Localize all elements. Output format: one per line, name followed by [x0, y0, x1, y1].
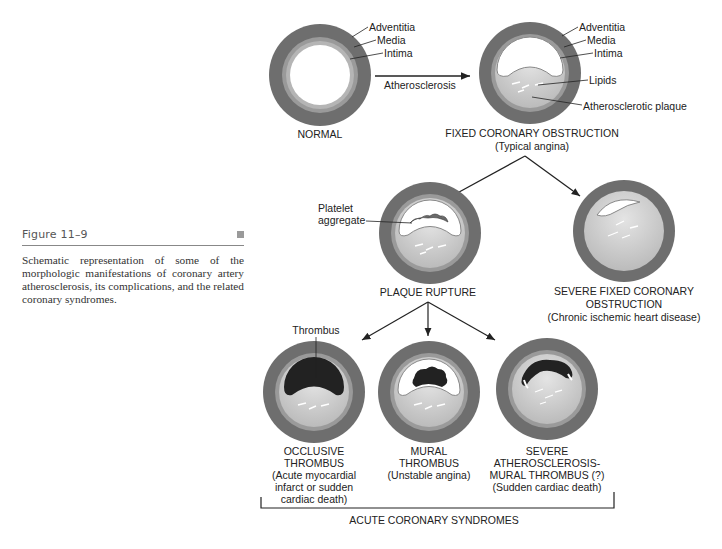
label-intima-2: Intima: [594, 47, 623, 59]
stage-occlusive-line4: infarct or sudden: [275, 481, 353, 493]
label-thrombus: Thrombus: [292, 324, 339, 336]
stage-fixed-title: FIXED CORONARY OBSTRUCTION: [445, 127, 618, 139]
vessel-severe-fixed: SEVERE FIXED CORONARY OBSTRUCTION (Chron…: [548, 180, 701, 323]
stage-occlusive-line5: cardiac death): [281, 493, 348, 505]
label-atherosclerotic-plaque: Atherosclerotic plaque: [583, 100, 687, 112]
stage-mural-line1: MURAL: [411, 445, 448, 457]
stage-fixed-subtitle: (Typical angina): [495, 140, 569, 152]
stage-severe-mural-line1: SEVERE: [526, 445, 569, 457]
group-label-acs: ACUTE CORONARY SYNDROMES: [349, 514, 518, 526]
label-platelet-line1: Platelet: [318, 202, 353, 214]
label-intima: Intima: [384, 47, 413, 59]
label-adventitia: Adventitia: [369, 21, 415, 33]
atherosclerosis-arrow: Atherosclerosis: [375, 76, 470, 91]
label-adventitia-2: Adventitia: [579, 21, 625, 33]
label-media-2: Media: [587, 34, 616, 46]
vessel-plaque-rupture: Platelet aggregate PLAQUE RUPTURE: [318, 182, 481, 298]
stage-normal-title: NORMAL: [298, 128, 343, 140]
stage-mural-line2: THROMBUS: [399, 457, 459, 469]
stage-mural-line3: (Unstable angina): [388, 469, 471, 481]
label-platelet-line2: aggregate: [318, 214, 365, 226]
vessel-severe-mural-thrombus: SEVERE ATHEROSCLEROSIS- MURAL THROMBUS (…: [490, 338, 605, 493]
stage-severe-fixed-line1: SEVERE FIXED CORONARY: [554, 285, 694, 297]
stage-occlusive-line3: (Acute myocardial: [272, 469, 356, 481]
branch-arrows-fixed: [450, 156, 580, 197]
stage-occlusive-line1: OCCLUSIVE: [284, 445, 345, 457]
stage-severe-mural-line4: (Sudden cardiac death): [492, 481, 601, 493]
stage-severe-fixed-subtitle: (Chronic ischemic heart disease): [548, 311, 701, 323]
stage-rupture-title: PLAQUE RUPTURE: [380, 286, 476, 298]
vessel-mural-thrombus: MURAL THROMBUS (Unstable angina): [378, 341, 480, 481]
branch-arrows-rupture: [362, 302, 495, 340]
stage-severe-mural-line3: MURAL THROMBUS (?): [490, 469, 605, 481]
stage-severe-mural-line2: ATHEROSCLEROSIS-: [494, 457, 601, 469]
vessel-fixed-obstruction: Adventitia Media Intima Lipids Atheroscl…: [445, 21, 687, 152]
stage-severe-fixed-line2: OBSTRUCTION: [586, 298, 662, 310]
stage-occlusive-line2: THROMBUS: [284, 457, 344, 469]
arrow-label-atherosclerosis: Atherosclerosis: [384, 79, 456, 91]
vessel-occlusive-thrombus: Thrombus OCCLUSIVE THROMBUS (Acute myoca…: [263, 324, 365, 505]
label-media: Media: [377, 34, 406, 46]
atherosclerosis-diagram: Adventitia Media Intima NORMAL Atheroscl…: [0, 0, 722, 549]
label-lipids: Lipids: [589, 74, 616, 86]
